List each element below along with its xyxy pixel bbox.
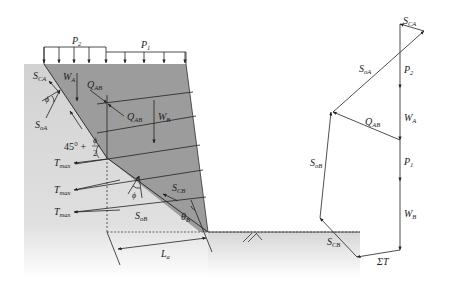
poly-q-ab-label: QAB (365, 116, 380, 128)
poly-p1-label: P1 (403, 156, 413, 168)
force-polygon (320, 24, 424, 257)
svg-text:45° +: 45° + (64, 141, 86, 152)
poly-s-ob-label: SoB (310, 157, 322, 169)
phi-a-label: ϕ (45, 95, 49, 104)
poly-w-a-label: WA (404, 112, 416, 124)
svg-text:ϕ: ϕ (93, 136, 97, 145)
load-p1-label: P1 (140, 39, 150, 51)
poly-s-ca-label: SCA (403, 15, 416, 27)
poly-s-oa-label: SoA (359, 63, 371, 75)
retaining-wall-diagram: P2 P1 SCA WA ϕ SoA QAB QAB WB 45° + ϕ 2 (0, 0, 451, 284)
poly-sum-t-label: ΣT (376, 256, 390, 267)
foundation-soil (208, 232, 360, 278)
surface-loads (44, 47, 186, 64)
phi-b-label: ϕ (132, 191, 136, 200)
poly-w-b-label: WB (404, 208, 416, 220)
load-p2-label: P2 (71, 35, 82, 47)
poly-p2-label: P2 (403, 64, 414, 76)
